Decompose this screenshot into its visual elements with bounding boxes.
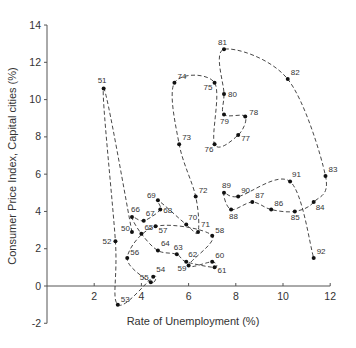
data-point-label: 54: [156, 265, 165, 274]
data-point-marker: [130, 230, 134, 234]
x-tick-label: 10: [277, 290, 289, 302]
data-point-marker: [113, 239, 117, 243]
y-tick-label: 10: [29, 93, 41, 105]
data-point-label: 91: [292, 170, 301, 179]
data-point-label: 89: [222, 181, 231, 190]
x-axis: 24681012: [47, 283, 336, 302]
data-point: 54: [151, 265, 165, 279]
data-point: 76: [205, 142, 217, 154]
data-point-marker: [222, 92, 226, 96]
data-point-label: 72: [199, 186, 208, 195]
data-point: 65: [139, 223, 153, 236]
data-points: 5051525354555657585960616263646566676869…: [98, 38, 338, 306]
data-point-label: 61: [218, 266, 227, 275]
y-tick-label: 2: [35, 242, 41, 254]
data-point-label: 55: [140, 273, 149, 282]
data-point: 84: [312, 200, 325, 212]
data-point: 87: [250, 191, 264, 204]
data-point-label: 69: [147, 191, 156, 200]
data-point-label: 63: [174, 243, 183, 252]
data-point-label: 81: [218, 38, 227, 47]
data-point-label: 83: [328, 165, 337, 174]
data-point: 53: [116, 295, 130, 307]
data-point-marker: [125, 256, 129, 260]
data-point-label: 68: [163, 206, 172, 215]
data-point: 73: [177, 133, 191, 146]
data-point-label: 80: [228, 90, 237, 99]
data-point-label: 92: [317, 247, 326, 256]
x-tick-label: 6: [186, 290, 192, 302]
data-point-label: 52: [102, 237, 111, 246]
data-point: 64: [156, 239, 170, 253]
y-tick-label: 0: [35, 280, 41, 292]
data-point-marker: [196, 230, 200, 234]
data-point: 57: [154, 224, 168, 235]
data-point-marker: [172, 81, 176, 85]
data-point-marker: [139, 232, 143, 236]
data-point-label: 86: [274, 199, 283, 208]
data-point-marker: [151, 275, 155, 279]
data-point: 66: [130, 205, 140, 219]
data-point-marker: [177, 142, 181, 146]
data-point: 55: [140, 273, 153, 284]
data-point-marker: [184, 260, 188, 264]
data-point-marker: [213, 265, 217, 269]
data-point-marker: [158, 208, 162, 212]
data-point-label: 85: [291, 213, 300, 222]
data-point-label: 65: [144, 223, 153, 232]
data-point: 79: [220, 113, 229, 126]
data-point: 89: [222, 181, 231, 195]
data-point-label: 62: [188, 250, 197, 259]
data-point-marker: [250, 200, 254, 204]
data-point-marker: [312, 256, 316, 260]
data-point-label: 66: [131, 205, 140, 214]
data-point: 68: [158, 206, 172, 215]
data-point-label: 59: [178, 264, 187, 273]
x-tick-label: 8: [233, 290, 239, 302]
data-point-label: 60: [215, 251, 224, 260]
data-point-marker: [154, 224, 158, 228]
data-point-marker: [142, 219, 146, 223]
data-point: 70: [184, 213, 197, 226]
data-point: 63: [174, 243, 183, 256]
data-point-marker: [184, 222, 188, 226]
data-point-label: 88: [229, 212, 238, 221]
y-tick-label: 6: [35, 168, 41, 180]
data-point: 86: [269, 199, 283, 212]
data-point-label: 50: [121, 224, 130, 233]
y-tick-label: 14: [29, 19, 41, 31]
data-point-label: 51: [98, 76, 107, 85]
data-point-label: 73: [182, 133, 191, 142]
data-point-marker: [210, 234, 214, 238]
y-tick-label: 4: [35, 205, 41, 217]
data-point: 78: [243, 108, 258, 118]
data-point-label: 64: [161, 239, 170, 248]
data-point-label: 53: [121, 295, 130, 304]
data-point-marker: [175, 252, 179, 256]
x-tick-label: 4: [138, 290, 144, 302]
data-point-marker: [222, 191, 226, 195]
data-point: 52: [102, 237, 117, 246]
data-point: 50: [121, 224, 134, 234]
data-point-marker: [187, 263, 191, 267]
data-point-marker: [149, 280, 153, 284]
data-point: 51: [98, 76, 107, 90]
data-point-label: 67: [146, 209, 155, 218]
data-point-label: 58: [215, 226, 224, 235]
data-point-label: 71: [201, 220, 210, 229]
data-point: 58: [210, 226, 224, 238]
data-point: 74: [172, 72, 186, 85]
data-point-label: 84: [316, 203, 325, 212]
data-point-marker: [102, 86, 106, 90]
data-point-marker: [222, 47, 226, 51]
data-point: 92: [312, 247, 326, 260]
data-point-label: 75: [204, 83, 213, 92]
data-point: 75: [204, 81, 217, 92]
data-point-marker: [116, 303, 120, 307]
data-point-label: 74: [177, 72, 186, 81]
x-tick-label: 12: [324, 290, 336, 302]
y-axis-title: Consumer Price Index, Capital cities (%): [6, 67, 18, 264]
data-point-label: 77: [241, 134, 250, 143]
data-point: 90: [236, 186, 250, 199]
x-tick-label: 2: [91, 290, 97, 302]
